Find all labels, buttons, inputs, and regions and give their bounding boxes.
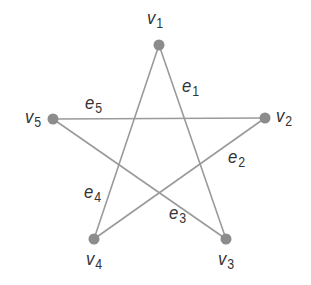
vertex-label-subscript: 5	[34, 114, 41, 130]
edge-label-subscript: 4	[94, 189, 101, 205]
vertex-label-subscript: 2	[285, 113, 292, 129]
vertex-v4	[89, 234, 100, 245]
edge-label-e3: e3	[169, 203, 186, 225]
vertex-label-v5: v5	[25, 107, 41, 129]
vertex-label-subscript: 4	[95, 256, 102, 272]
edge-label-main: e	[228, 146, 237, 167]
edge-e4	[94, 45, 159, 239]
edge-label-e5: e5	[85, 93, 102, 115]
vertex-label-main: v	[25, 106, 33, 127]
edge-label-e4: e4	[84, 182, 101, 204]
edge-e5	[53, 118, 265, 119]
vertex-v1	[154, 40, 165, 51]
vertex-label-v1: v1	[147, 8, 163, 30]
edge-e3	[53, 119, 226, 239]
edge-label-main: e	[84, 181, 93, 202]
edge-label-e2: e2	[228, 147, 245, 169]
vertex-label-main: v	[218, 248, 226, 269]
vertex-label-subscript: 1	[156, 15, 163, 31]
vertex-label-main: v	[276, 105, 284, 126]
edge-label-e1: e1	[182, 76, 199, 98]
edge-label-subscript: 1	[192, 83, 199, 99]
vertex-label-v4: v4	[86, 249, 102, 271]
vertex-v3	[221, 234, 232, 245]
edge-label-subscript: 5	[95, 100, 102, 116]
edge-label-subscript: 3	[179, 210, 186, 226]
vertex-label-v3: v3	[218, 249, 234, 271]
vertex-v5	[48, 114, 59, 125]
vertex-v2	[260, 113, 271, 124]
vertices	[48, 40, 271, 245]
edge-label-subscript: 2	[238, 154, 245, 170]
edge-label-main: e	[182, 75, 191, 96]
edges	[53, 45, 265, 239]
pentagram-graph	[0, 0, 311, 285]
vertex-label-main: v	[86, 248, 94, 269]
edge-label-main: e	[169, 202, 178, 223]
vertex-label-main: v	[147, 7, 155, 28]
vertex-label-v2: v2	[276, 106, 292, 128]
edge-label-main: e	[85, 92, 94, 113]
vertex-label-subscript: 3	[227, 256, 234, 272]
